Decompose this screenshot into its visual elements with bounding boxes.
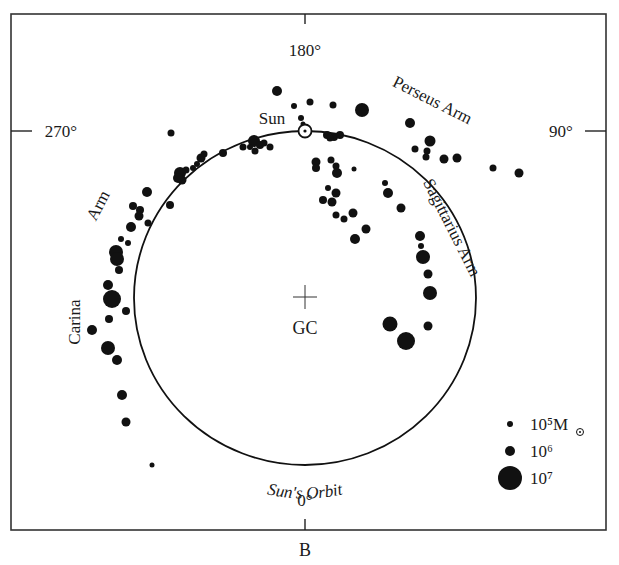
cloud-marker (307, 99, 314, 106)
cloud-marker (298, 115, 304, 121)
cloud-marker (272, 86, 282, 96)
cloud-marker (424, 270, 433, 279)
cloud-marker (425, 136, 436, 147)
molecular-cloud-markers (87, 86, 524, 468)
cloud-marker (129, 202, 137, 210)
cloud-marker (118, 236, 124, 242)
cloud-marker (349, 209, 358, 218)
cloud-marker (122, 307, 130, 315)
cloud-marker (332, 189, 341, 198)
sun-symbol-icon (299, 125, 312, 138)
figure-frame (11, 14, 606, 530)
cloud-marker (142, 187, 152, 197)
cloud-marker (247, 144, 253, 150)
cloud-marker (110, 252, 124, 266)
legend-dot-icon (498, 466, 522, 490)
galactic-map: 180° 270° 90° 0° Sun's Orbit GC Sun Pers… (0, 0, 619, 565)
cloud-marker (383, 317, 398, 332)
label-90-degrees: 90° (549, 122, 573, 141)
cloud-marker (117, 390, 127, 400)
cloud-marker (87, 325, 97, 335)
cloud-marker (319, 196, 327, 204)
legend-dot-icon (507, 421, 513, 427)
cloud-marker (383, 188, 393, 198)
cloud-marker (173, 173, 183, 183)
cloud-marker (333, 212, 340, 219)
cloud-marker (350, 234, 360, 244)
cloud-marker (423, 154, 430, 161)
cloud-marker (125, 240, 131, 246)
galactic-center-label: GC (292, 318, 317, 338)
cloud-marker (101, 341, 115, 355)
cloud-marker (332, 168, 342, 178)
cloud-marker (418, 243, 424, 249)
axis-ticks (11, 14, 606, 530)
arm-label-carina-arm: Arm (82, 187, 113, 223)
cloud-marker (336, 131, 344, 139)
cloud-marker (240, 144, 247, 151)
sun-label: Sun (259, 109, 286, 128)
cloud-marker (515, 169, 524, 178)
cloud-marker (397, 332, 415, 350)
cloud-marker (327, 135, 334, 142)
cloud-marker (166, 201, 174, 209)
cloud-marker (261, 140, 268, 147)
cloud-marker (168, 130, 175, 137)
sun-orbit-label: Sun's Orbit (266, 479, 345, 502)
cloud-marker (122, 418, 131, 427)
cloud-marker (416, 250, 430, 264)
cloud-marker (415, 231, 425, 241)
legend-label: 10⁷ (530, 469, 553, 488)
cloud-marker (355, 103, 369, 117)
galactic-center-cross-icon (293, 285, 317, 309)
cloud-marker (201, 151, 208, 158)
mass-legend: 10⁵M10⁶10⁷ (498, 415, 584, 490)
cloud-marker (291, 103, 297, 109)
cloud-marker (341, 216, 348, 223)
cloud-marker (397, 204, 406, 213)
cloud-marker (405, 118, 415, 128)
cloud-marker (267, 144, 274, 151)
cloud-marker (112, 355, 122, 365)
cloud-marker (325, 185, 331, 191)
cloud-marker (352, 167, 357, 172)
cloud-marker (190, 165, 196, 171)
cloud-marker (423, 286, 437, 300)
arm-label-carina: Carina (65, 299, 84, 345)
cloud-marker (362, 225, 371, 234)
cloud-marker (150, 463, 155, 468)
cloud-marker (103, 290, 121, 308)
cloud-marker (440, 155, 449, 164)
axis-tick-labels: 180° 270° 90° 0° (45, 41, 573, 510)
cloud-marker (115, 266, 123, 274)
legend-label: 10⁶ (530, 442, 553, 461)
cloud-marker (312, 164, 320, 172)
cloud-marker (105, 315, 113, 323)
arm-label-sagittarius: Sagittarius Arm (419, 175, 485, 279)
cloud-marker (328, 198, 337, 207)
cloud-marker (145, 220, 152, 227)
legend-dot-icon (505, 446, 515, 456)
label-270-degrees: 270° (45, 122, 77, 141)
arm-label-perseus: Perseus Arm (390, 72, 476, 128)
panel-label: B (299, 540, 311, 560)
cloud-marker (424, 148, 431, 155)
cloud-marker (453, 154, 462, 163)
cloud-marker (330, 102, 337, 109)
legend-label: 10⁵M (530, 415, 568, 434)
cloud-marker (183, 167, 190, 174)
cloud-marker (424, 322, 433, 331)
cloud-marker (412, 146, 419, 153)
cloud-marker (328, 157, 335, 164)
cloud-marker (135, 212, 144, 221)
label-180-degrees: 180° (289, 41, 321, 60)
cloud-marker (103, 280, 113, 290)
cloud-marker (219, 149, 227, 157)
cloud-marker (382, 180, 388, 186)
cloud-marker (490, 165, 497, 172)
cloud-marker (126, 222, 136, 232)
